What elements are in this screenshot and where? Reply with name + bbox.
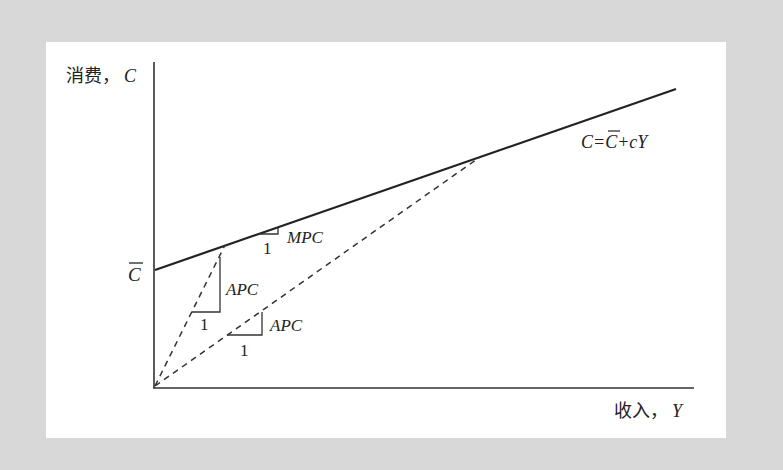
consumption-line (155, 89, 676, 270)
y-axis-label: 消费，C (66, 66, 137, 86)
x-axis-label: 收入，Y (614, 401, 684, 421)
apc-triangle-2 (227, 312, 262, 335)
consumption-function-diagram: 消费，C 收入，Y C C=C+cY MPC 1 APC 1 APC 1 (0, 0, 783, 470)
mpc-label: MPC (286, 228, 324, 247)
apc-run-label-2: 1 (240, 341, 249, 360)
apc-ray-long (155, 157, 480, 386)
apc-run-label-1: 1 (200, 315, 209, 334)
apc-label-2: APC (269, 316, 303, 335)
equation-label: C=C+cY (581, 132, 649, 152)
apc-label-1: APC (225, 280, 259, 299)
intercept-label: C (128, 264, 141, 285)
mpc-run-label: 1 (263, 239, 272, 258)
